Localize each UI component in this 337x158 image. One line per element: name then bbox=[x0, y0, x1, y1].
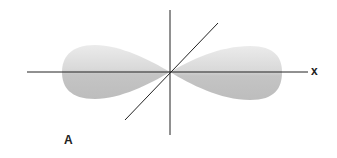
x-axis-label: x bbox=[311, 64, 318, 78]
right-lobe bbox=[170, 46, 282, 100]
panel-label: A bbox=[64, 133, 73, 147]
orbital-diagram bbox=[0, 0, 337, 158]
